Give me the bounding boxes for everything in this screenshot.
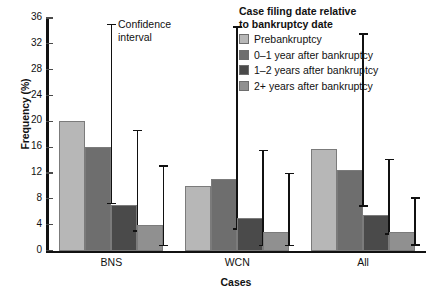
- error-bar-cap: [159, 165, 168, 167]
- x-axis-category-label: All: [300, 256, 426, 268]
- y-axis-tick-label: 16: [16, 141, 42, 151]
- legend-items: Prebankruptcy0–1 year after bankruptcy1–…: [239, 32, 435, 93]
- legend-swatch: [239, 65, 249, 75]
- bar: [137, 225, 163, 251]
- y-axis-tick-label: 24: [16, 90, 42, 100]
- legend-label: Prebankruptcy: [254, 33, 322, 45]
- bar: [263, 232, 289, 251]
- x-axis-label: Cases: [46, 276, 426, 288]
- y-axis-tick-label: 36: [16, 12, 42, 22]
- error-bar: [163, 166, 165, 245]
- error-bar-cap: [133, 130, 142, 132]
- y-axis-tick-label: 32: [16, 38, 42, 48]
- bar-group: [49, 18, 175, 251]
- error-bar-cap: [259, 150, 268, 152]
- y-axis-tick-label: 28: [16, 64, 42, 74]
- bar: [211, 179, 237, 250]
- legend-item: 2+ years after bankruptcy: [239, 79, 435, 93]
- bar: [85, 147, 111, 250]
- error-bar: [111, 24, 113, 203]
- error-bar-cap: [285, 245, 294, 247]
- bar: [311, 149, 337, 250]
- error-bar-cap: [285, 173, 294, 175]
- bar: [185, 186, 211, 251]
- error-bar-cap: [159, 245, 168, 247]
- legend-swatch: [239, 34, 249, 44]
- legend-label: 2+ years after bankruptcy: [254, 80, 373, 92]
- legend-label: 0–1 year after bankruptcy: [254, 49, 373, 61]
- y-axis-tick-label: 4: [16, 219, 42, 229]
- legend: Case filing date relative to bankruptcy …: [239, 5, 435, 93]
- confidence-interval-annotation: Confidence interval: [118, 18, 171, 43]
- x-axis-line: [46, 251, 426, 254]
- bar-chart: Frequency (%) Cases 36322824201612840 BN…: [0, 0, 435, 296]
- legend-swatch: [239, 81, 249, 91]
- error-bar-cap: [107, 24, 116, 26]
- legend-title: Case filing date relative to bankruptcy …: [239, 5, 435, 30]
- y-axis-tick-label: 12: [16, 167, 42, 177]
- legend-item: Prebankruptcy: [239, 32, 435, 46]
- bar: [337, 170, 363, 251]
- error-bar: [388, 159, 390, 233]
- x-axis-category-label: BNS: [49, 256, 175, 268]
- error-bar-cap: [359, 205, 368, 207]
- x-axis-category-label: WCN: [174, 256, 300, 268]
- error-bar: [288, 174, 290, 246]
- legend-label: 1–2 years after bankruptcy: [254, 64, 378, 76]
- y-axis-tick-label: 20: [16, 115, 42, 125]
- bar: [389, 232, 415, 250]
- y-axis-tick-label: 8: [16, 193, 42, 203]
- legend-item: 1–2 years after bankruptcy: [239, 63, 435, 77]
- y-axis-tick-label: 0: [16, 245, 42, 255]
- error-bar: [137, 130, 139, 231]
- error-bar-cap: [107, 203, 116, 205]
- error-bar: [414, 198, 416, 245]
- error-bar-cap: [411, 197, 420, 199]
- bar: [59, 121, 85, 250]
- error-bar-cap: [385, 159, 394, 161]
- error-bar: [236, 27, 238, 229]
- legend-swatch: [239, 50, 249, 60]
- error-bar-cap: [411, 244, 420, 246]
- bar: [111, 205, 137, 250]
- legend-item: 0–1 year after bankruptcy: [239, 48, 435, 62]
